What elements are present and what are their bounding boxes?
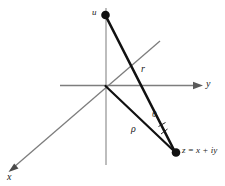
complex-plane-figure: u y x r ρ θ z = x + iy xyxy=(0,0,225,186)
label-z: z = x + iy xyxy=(182,146,217,155)
label-rho: ρ xyxy=(131,124,136,134)
label-x-axis: x xyxy=(7,172,11,182)
segment-origin-z xyxy=(106,86,176,152)
point-z-dot xyxy=(172,148,181,157)
y-axis-arrowhead xyxy=(193,82,203,89)
label-u: u xyxy=(92,8,97,17)
point-u-dot xyxy=(101,11,110,20)
label-r: r xyxy=(141,64,145,74)
label-theta: θ xyxy=(152,110,156,119)
x-axis-line xyxy=(14,41,160,167)
figure-canvas xyxy=(0,0,225,186)
label-y-axis: y xyxy=(206,79,210,89)
